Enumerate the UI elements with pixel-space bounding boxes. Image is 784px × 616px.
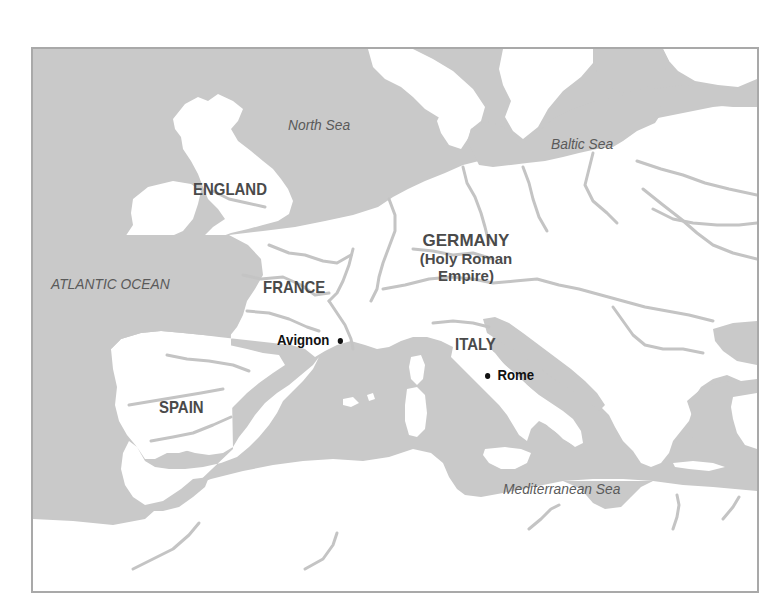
sea-biscay [33,235,263,349]
label-baltic-sea: Baltic Sea [551,136,613,151]
label-spain: SPAIN [159,399,204,416]
label-italy: ITALY [455,336,496,353]
label-germany-sub2: Empire) [411,267,521,284]
rome-name: Rome [497,366,534,383]
avignon-name: Avignon [277,331,329,348]
label-atlantic-ocean: ATLANTIC OCEAN [51,276,170,291]
city-dot-icon [337,338,342,344]
label-avignon: Avignon [277,332,343,347]
city-dot-icon [485,373,490,379]
map-base [33,49,757,591]
label-germany-sub1: (Holy Roman [411,250,521,267]
label-north-sea: North Sea [288,117,350,132]
map-frame: North Sea Baltic Sea ATLANTIC OCEAN Medi… [31,47,759,593]
label-germany-name: GERMANY [411,232,521,250]
label-mediterranean-sea: Mediterranean Sea [503,481,620,496]
label-germany: GERMANY (Holy Roman Empire) [411,232,521,284]
label-rome: Rome [485,367,534,382]
label-france: FRANCE [263,279,325,296]
land-sardinia [405,387,427,437]
label-england: ENGLAND [193,181,267,198]
